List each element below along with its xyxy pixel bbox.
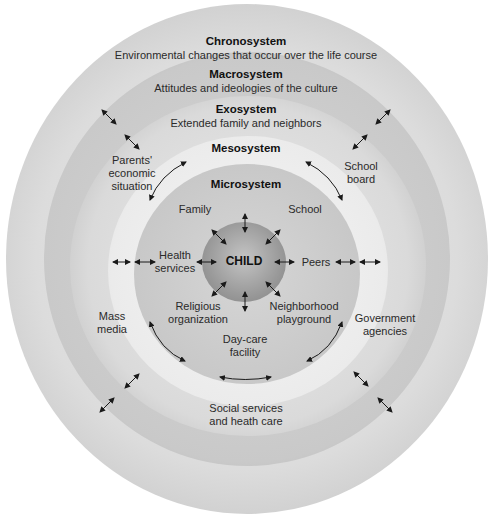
neighborhood-playground-label: Neighborhood playground — [264, 300, 344, 326]
health-services-label: Health services — [145, 249, 205, 275]
chronosystem-title: Chronosystem — [0, 35, 492, 48]
arrow-icon — [212, 282, 226, 296]
arrow-icon — [266, 282, 280, 296]
school-board-label: School board — [336, 160, 386, 186]
arrow-icon — [150, 322, 185, 361]
social-services-label: Social services and heath care — [186, 402, 306, 428]
exosystem-title: Exosystem — [0, 103, 492, 116]
peers-label: Peers — [294, 256, 338, 269]
government-agencies-label: Government agencies — [350, 312, 420, 338]
mesosystem-title: Mesosystem — [0, 142, 492, 155]
arrow-icon — [220, 377, 271, 380]
microsystem-title: Microsystem — [0, 178, 492, 191]
arrow-icon — [378, 398, 392, 412]
macrosystem-title: Macrosystem — [0, 68, 492, 81]
religious-organization-label: Religious organization — [158, 300, 238, 326]
arrow-icon — [307, 322, 342, 361]
arrow-icon — [212, 230, 226, 244]
arrow-icon — [125, 374, 139, 388]
mass-media-label: Mass media — [92, 310, 132, 336]
chronosystem-description: Environmental changes that occur over th… — [0, 49, 492, 62]
exosystem-description: Extended family and neighbors — [0, 117, 492, 130]
daycare-facility-label: Day-care facility — [210, 333, 280, 359]
arrow-icon — [354, 372, 368, 386]
family-label: Family — [160, 203, 230, 216]
child-label: CHILD — [202, 255, 286, 268]
arrow-icon — [266, 230, 280, 244]
school-label: School — [270, 203, 340, 216]
arrow-icon — [100, 398, 114, 412]
macrosystem-description: Attitudes and ideologies of the culture — [0, 82, 492, 95]
parents-economic-situation-label: Parents' economic situation — [98, 154, 166, 193]
